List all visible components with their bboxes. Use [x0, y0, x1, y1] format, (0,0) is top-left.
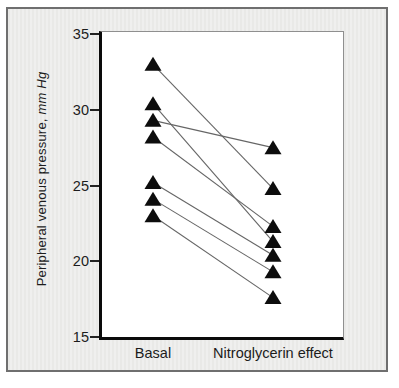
y-tick-mark: [90, 33, 99, 35]
y-axis-title-text: Peripheral venous pressure,: [34, 115, 49, 287]
y-tick-mark: [90, 109, 99, 111]
x-axis-label-basal: Basal: [113, 345, 193, 361]
y-tick-label: 20: [59, 253, 89, 269]
y-tick-label: 30: [59, 102, 89, 118]
y-tick-mark: [90, 336, 99, 338]
y-tick-label: 25: [59, 178, 89, 194]
y-tick-mark: [90, 260, 99, 262]
y-axis-title: Peripheral venous pressure, mm Hg: [34, 64, 52, 294]
plot-area: [99, 31, 344, 340]
y-tick-mark: [90, 185, 99, 187]
y-tick-label: 35: [59, 26, 89, 42]
y-axis-title-units: mm Hg: [34, 72, 49, 115]
y-tick-label: 15: [59, 329, 89, 345]
x-axis-label-nitroglycerin: Nitroglycerin effect: [203, 345, 343, 361]
